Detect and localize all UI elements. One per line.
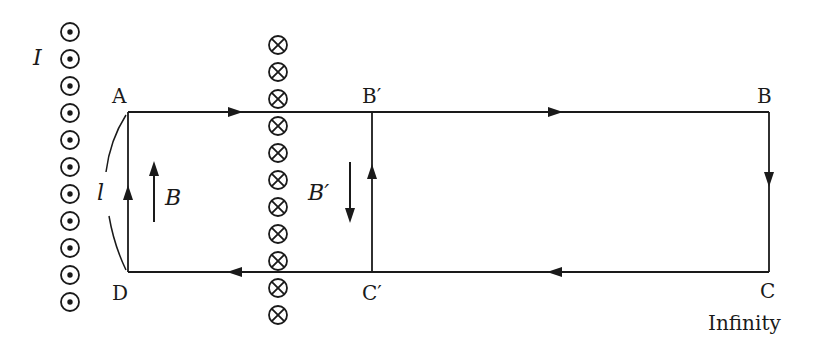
dot-circle-icon xyxy=(61,158,79,176)
label-infinity: Infinity xyxy=(708,311,781,335)
left-wire-current-out xyxy=(61,23,79,311)
label-field-b-prime: B′ xyxy=(307,180,329,205)
middle-wire-current-in xyxy=(269,36,287,324)
cross-circle-icon xyxy=(269,90,287,108)
label-point-b: B xyxy=(757,84,772,108)
arrow-left-icon xyxy=(227,267,242,277)
label-current-i: I xyxy=(32,45,43,70)
dot-circle-icon xyxy=(61,50,79,68)
arrow-up-icon xyxy=(149,161,159,176)
arrow-up-icon xyxy=(123,185,133,200)
dot-circle-icon xyxy=(61,185,79,203)
cross-circle-icon xyxy=(269,252,287,270)
dot-circle-icon xyxy=(61,239,79,257)
cross-circle-icon xyxy=(269,36,287,54)
arrow-up-icon xyxy=(367,164,377,179)
dot-circle-icon xyxy=(61,104,79,122)
cross-circle-icon xyxy=(269,198,287,216)
cross-circle-icon xyxy=(269,306,287,324)
label-point-b-prime: B′ xyxy=(362,84,382,108)
loop-abcd xyxy=(128,112,769,272)
field-arrow-b-prime xyxy=(345,162,355,223)
dot-circle-icon xyxy=(61,131,79,149)
arrow-right-icon xyxy=(228,107,243,117)
label-point-a: A xyxy=(111,84,127,108)
label-point-c: C xyxy=(760,279,775,303)
dot-circle-icon xyxy=(61,77,79,95)
dot-circle-icon xyxy=(61,293,79,311)
arrow-left-icon xyxy=(547,267,562,277)
length-bracket xyxy=(106,115,126,270)
cross-circle-icon xyxy=(269,225,287,243)
loop-direction-arrows xyxy=(123,107,774,277)
arrow-down-icon xyxy=(764,172,774,187)
dot-circle-icon xyxy=(61,212,79,230)
label-point-d: D xyxy=(112,281,128,305)
cross-circle-icon xyxy=(269,279,287,297)
label-point-c-prime: C′ xyxy=(362,281,382,305)
diagram-canvas: I A D B′ C′ B C Infinity l B B′ xyxy=(0,0,822,349)
dot-circle-icon xyxy=(61,23,79,41)
cross-circle-icon xyxy=(269,63,287,81)
cross-circle-icon xyxy=(269,117,287,135)
cross-circle-icon xyxy=(269,171,287,189)
label-field-b: B xyxy=(164,185,181,210)
arrow-right-icon xyxy=(548,107,563,117)
field-arrow-b xyxy=(149,161,159,222)
arrow-down-icon xyxy=(345,208,355,223)
dot-circle-icon xyxy=(61,266,79,284)
cross-circle-icon xyxy=(269,144,287,162)
label-length-l: l xyxy=(97,180,104,205)
